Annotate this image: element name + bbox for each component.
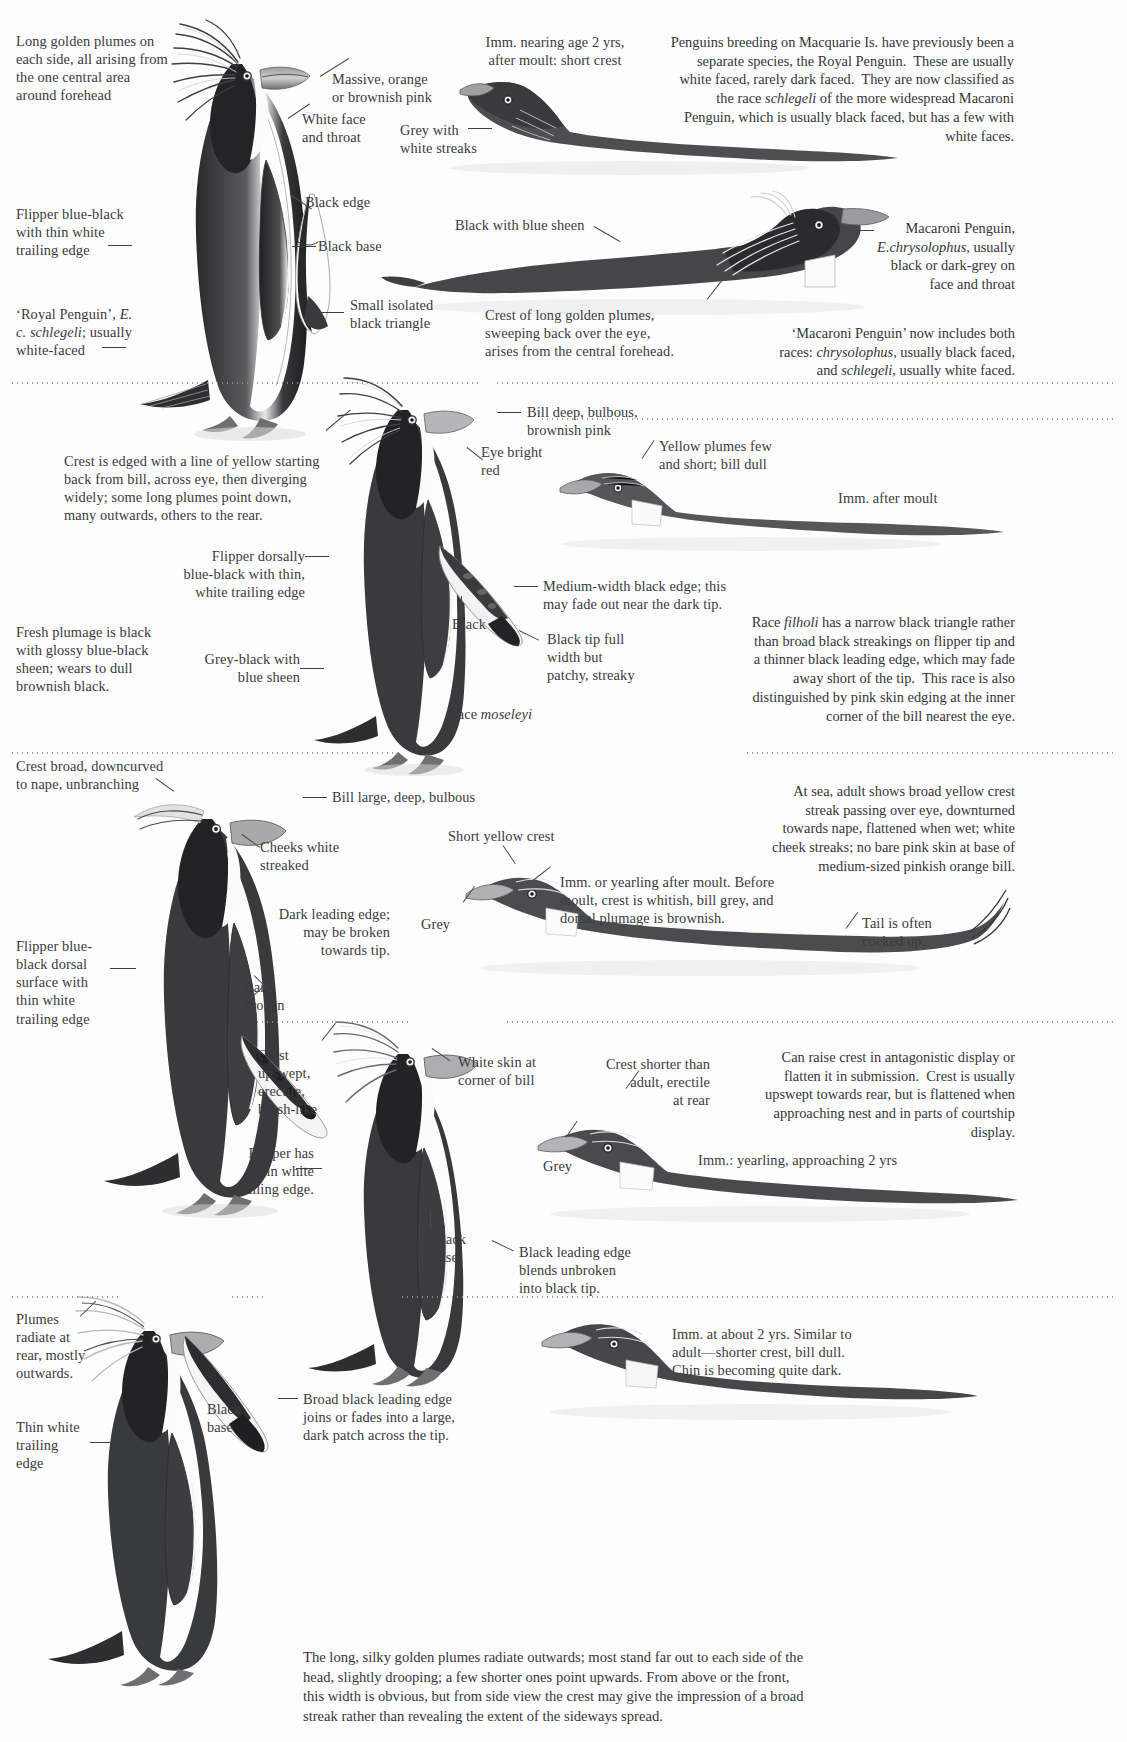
- label-crest-broad-downcurved: Crest broad, downcurved to nape, unbranc…: [16, 757, 201, 793]
- leader-bill-large: [303, 797, 327, 798]
- label-crest-of-long-golden-plumes: Crest of long golden plumes, sweeping ba…: [485, 306, 745, 360]
- note-macaroni-includes: ‘Macaroni Penguin’ now includes both rac…: [760, 324, 1015, 380]
- label-race-moseleyi: Race moseleyi: [448, 705, 598, 723]
- illustration-flipper-bottom-detail: [175, 1330, 285, 1460]
- leader-flipper-dorsal: [305, 556, 329, 557]
- leader-black-base: [292, 246, 316, 247]
- label-black-with-blue-sheen: Black with blue sheen: [455, 216, 635, 234]
- label-imm-or-yearling-after-moult: Imm. or yearling after moult. Before mou…: [560, 873, 820, 927]
- label-dark-leading-edge: Dark leading edge; may be broken towards…: [240, 905, 390, 959]
- divider-1-right: [495, 382, 1115, 384]
- label-grey-with-white-streaks: Grey with white streaks: [400, 121, 520, 157]
- label-massive-orange-bill: Massive, orange or brownish pink: [332, 70, 492, 106]
- label-flipper-dorsally-blue-black: Flipper dorsally blue-black with thin, w…: [160, 547, 305, 601]
- divider-5-mid: [230, 1296, 265, 1298]
- leader-black-base-2: [430, 1210, 431, 1228]
- label-cheeks-white-streaked: Cheeks white streaked: [260, 838, 400, 874]
- divider-3-left: [10, 752, 395, 754]
- field-guide-plate: Long golden plumes on each side, all ari…: [0, 0, 1127, 1742]
- label-black-tip-full-width: Black tip full width but patchy, streaky: [547, 630, 687, 684]
- label-black-leading-edge-blends: Black leading edge blends unbroken into …: [519, 1243, 709, 1297]
- label-imm-yearling-approaching-2: Imm.: yearling, approaching 2 yrs: [698, 1151, 958, 1169]
- label-grey-black-blue-sheen: Grey-black with blue sheen: [150, 650, 300, 686]
- illustration-flipper-royal-detail: [278, 190, 348, 340]
- label-imm-about-2-yrs: Imm. at about 2 yrs. Similar to adult—sh…: [672, 1325, 932, 1379]
- divider-4-left: [255, 1021, 410, 1023]
- label-black-edge: Black edge: [305, 193, 435, 211]
- label-yellow-plumes-few: Yellow plumes few and short; bill dull: [659, 437, 829, 473]
- leader-grey-black: [300, 668, 324, 669]
- label-grey-1: Grey: [421, 915, 481, 933]
- label-long-golden-plumes: Long golden plumes on each side, all ari…: [16, 32, 216, 105]
- label-black-base: Black base: [318, 237, 448, 255]
- label-crest-shorter-than-adult: Crest shorter than adult, erectile at re…: [560, 1055, 710, 1109]
- label-bill-large-deep-bulbous: Bill large, deep, bulbous: [332, 788, 552, 806]
- label-macaroni-penguin-id: Macaroni Penguin,E.chrysolophus, usually…: [770, 219, 1015, 294]
- note-macquarie: Penguins breeding on Macquarie Is. have …: [666, 33, 1014, 145]
- label-imm-nearing-age-2: Imm. nearing age 2 yrs, after moult: sho…: [455, 33, 655, 69]
- label-crest-edged-yellow: Crest is edged with a line of yellow sta…: [64, 452, 334, 525]
- label-royal-penguin-id: ‘Royal Penguin’, E.c. schlegeli; usually…: [16, 305, 206, 359]
- label-bars-broken: Bars, broken: [244, 978, 324, 1014]
- note-antagonistic-display: Can raise crest in antagonistic display …: [760, 1048, 1015, 1142]
- label-eye-bright-red: Eye bright red: [481, 443, 571, 479]
- label-short-yellow-crest: Short yellow crest: [448, 827, 628, 845]
- label-tail-cocked-up: Tail is often cocked up.: [862, 914, 992, 950]
- label-flipper-blue-black-dorsal: Flipper blue- black dorsal surface with …: [16, 937, 126, 1028]
- label-flipper-has-thin-white: Flipper has thin white trailing edge.: [204, 1144, 314, 1198]
- label-crest-upswept-erectile: Crest upswept, erectile, brush-like: [258, 1046, 358, 1119]
- label-bill-deep-bulbous: Bill deep, bulbous, brownish pink: [527, 403, 677, 439]
- label-flipper-blue-black: Flipper blue-black with thin white trail…: [16, 205, 186, 259]
- divider-1-left: [10, 382, 480, 384]
- divider-5-right: [400, 1296, 1115, 1298]
- leader-medium-edge: [514, 586, 538, 587]
- note-at-sea: At sea, adult shows broad yellow crest s…: [760, 782, 1015, 876]
- label-black-base-3: Black base: [207, 1400, 277, 1436]
- label-black-base-2: Black base: [432, 1230, 502, 1266]
- label-thin-white-trailing-edge: Thin white trailing edge: [16, 1418, 116, 1472]
- leader-small-triangle: [320, 312, 344, 313]
- label-grey-2: Grey: [543, 1157, 603, 1175]
- divider-3-right: [745, 752, 1115, 754]
- divider-5-left: [10, 1296, 120, 1298]
- note-race-filholi: Race filholi has a narrow black triangle…: [748, 613, 1015, 725]
- label-imm-after-moult: Imm. after moult: [838, 489, 988, 507]
- label-plumes-radiate-at-rear: Plumes radiate at rear, mostly outwards.: [16, 1310, 126, 1383]
- divider-4-right: [505, 1021, 1115, 1023]
- bottom-caption: The long, silky golden plumes radiate ou…: [303, 1648, 813, 1726]
- label-black-1: Black: [452, 615, 512, 633]
- leader-broad-black: [278, 1398, 298, 1399]
- label-small-isolated-black-triangle: Small isolated black triangle: [350, 296, 500, 332]
- label-broad-black-leading-edge: Broad black leading edge joins or fades …: [303, 1390, 533, 1444]
- label-medium-width-black-edge: Medium-width black edge; this may fade o…: [543, 577, 793, 613]
- leader-bill-deep: [497, 412, 521, 413]
- leader-black-vert: [461, 596, 462, 616]
